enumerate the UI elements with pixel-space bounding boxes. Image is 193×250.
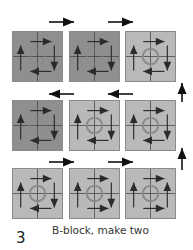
column-arrow-up-icon	[0, 0, 193, 250]
step-number: 3	[16, 229, 26, 247]
caption: B-block, make two	[52, 224, 149, 236]
